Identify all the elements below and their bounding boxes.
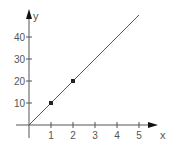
axes (16, 9, 158, 138)
x-axis-arrow-icon (148, 122, 158, 128)
data-line (29, 15, 139, 125)
y-axis-label: y (33, 10, 39, 22)
x-tick-label: 5 (136, 130, 142, 141)
chart-svg: 1234510203040 x y (0, 0, 180, 153)
data-point (49, 101, 53, 105)
x-tick-label: 3 (92, 130, 98, 141)
line-chart: 1234510203040 x y (0, 0, 180, 153)
y-axis-arrow-icon (26, 9, 32, 19)
x-tick-label: 2 (70, 130, 76, 141)
y-tick-label: 20 (14, 76, 26, 87)
x-tick-label: 4 (114, 130, 120, 141)
y-tick-label: 10 (14, 98, 26, 109)
y-tick-label: 30 (14, 54, 26, 65)
series (29, 15, 139, 125)
y-tick-label: 40 (14, 32, 26, 43)
x-axis-label: x (160, 129, 166, 141)
data-point (71, 79, 75, 83)
x-tick-label: 1 (48, 130, 54, 141)
